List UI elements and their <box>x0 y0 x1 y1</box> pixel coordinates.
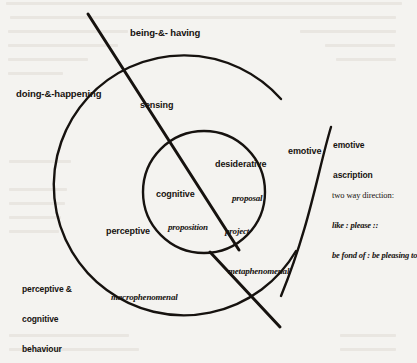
label-proposition: proposition <box>168 222 208 233</box>
label-sensing: sensing <box>140 100 173 111</box>
label-cognitive: cognitive <box>156 189 195 200</box>
label-being-and-having: being-&- having <box>130 27 200 38</box>
label-desiderative: desiderative <box>215 159 266 170</box>
label-perceptive-cognitive-behaviour: perceptive & cognitive behaviour <box>22 264 72 363</box>
label-project: project <box>225 226 249 237</box>
note-two-way-direction: two way direction: like : please :: be f… <box>332 170 417 280</box>
note-two-way-direction-heading: two way direction: <box>332 190 417 200</box>
label-macrophenomenal: macrophenomenal <box>111 292 178 303</box>
label-perceptive-cognitive-behaviour-line2: cognitive <box>22 314 72 324</box>
note-two-way-direction-line2: be fond of : be pleasing to <box>332 250 417 260</box>
label-metaphenomenal: metaphenomenal <box>228 266 289 277</box>
label-perceptive-cognitive-behaviour-line3: behaviour <box>22 344 72 354</box>
label-proposal: proposal <box>232 193 262 204</box>
label-emotive: emotive <box>288 146 321 157</box>
label-doing-and-happening: doing-&-happening <box>16 88 101 99</box>
label-perceptive: perceptive <box>106 226 150 237</box>
label-emotive-ascription-line1: emotive <box>333 140 373 150</box>
label-perceptive-cognitive-behaviour-line1: perceptive & <box>22 284 72 294</box>
note-two-way-direction-line1: like : please :: <box>332 220 417 230</box>
